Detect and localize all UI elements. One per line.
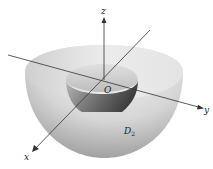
z-axis-label: z xyxy=(100,6,106,16)
y-axis-label: y xyxy=(203,105,210,115)
z-axis-arrow-icon xyxy=(102,17,107,23)
region-label-subscript: 2 xyxy=(131,130,135,137)
origin-label: O xyxy=(104,85,112,95)
hemispherical-shell-diagram: z y x O D2 xyxy=(0,0,213,169)
x-axis-label: x xyxy=(24,152,29,162)
region-label-main: D xyxy=(123,126,131,136)
y-axis-arrow-icon xyxy=(197,105,204,110)
